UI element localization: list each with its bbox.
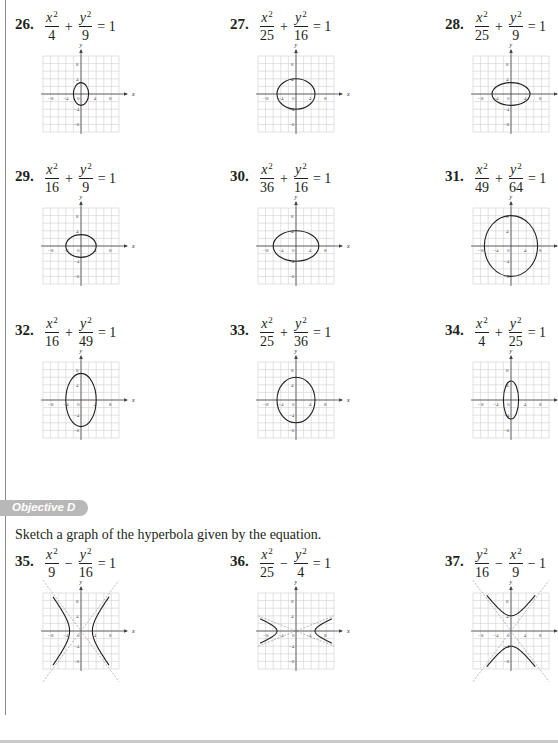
svg-text:y: y [294, 194, 298, 200]
numerator-variable: y [510, 162, 516, 177]
denominator: 25 [260, 564, 274, 580]
svg-text:8: 8 [76, 214, 79, 219]
coordinate-graph: xy−8−404884−4−8 [473, 593, 549, 669]
svg-text:0: 0 [77, 248, 80, 253]
denominator: 16 [294, 27, 308, 43]
svg-text:−8: −8 [263, 248, 269, 253]
numerator-variable: y [295, 162, 301, 177]
denominator: 9 [82, 179, 89, 195]
operator: − [280, 556, 288, 572]
denominator: 9 [48, 564, 55, 580]
svg-text:−8: −8 [289, 274, 295, 279]
fraction-term-2: y225 [509, 316, 523, 349]
svg-text:4: 4 [76, 614, 79, 619]
svg-text:0: 0 [507, 402, 510, 407]
svg-text:4: 4 [291, 383, 294, 388]
svg-text:−8: −8 [478, 402, 484, 407]
denominator: 16 [294, 179, 308, 195]
equation: x29−y216= 1 [43, 547, 116, 580]
svg-text:y: y [79, 348, 83, 354]
numerator-variable: y [295, 547, 301, 562]
numerator-variable: x [261, 316, 267, 331]
numerator-variable: y [295, 316, 301, 331]
denominator: 25 [260, 333, 274, 349]
svg-text:−4: −4 [74, 107, 80, 112]
equation: x225+y236= 1 [258, 316, 331, 349]
coordinate-graph: xy−8−404884−4−8 [258, 56, 334, 132]
svg-text:−8: −8 [48, 248, 54, 253]
objective-badge: Objective D [0, 500, 88, 516]
svg-text:−8: −8 [48, 633, 54, 638]
svg-text:−8: −8 [504, 122, 510, 127]
equation-rhs: = 1 [97, 19, 115, 35]
page-bottom-rule [0, 740, 558, 743]
denominator: 16 [45, 179, 59, 195]
svg-text:−4: −4 [504, 107, 510, 112]
operator: + [280, 171, 288, 187]
coordinate-graph: xy−8−404884−4−8 [43, 362, 119, 438]
numerator-variable: x [46, 316, 52, 331]
objective-badge-label: Objective D [12, 501, 75, 513]
svg-text:y: y [509, 579, 513, 585]
numerator-variable: x [261, 547, 267, 562]
coordinate-graph: xy−8−404884−4−8 [258, 593, 334, 669]
equation: x225+y29= 1 [473, 10, 546, 43]
equation-rhs: = 1 [313, 556, 331, 572]
fraction-term-1: x249 [475, 162, 489, 195]
coordinate-graph: xy−8−404884−4−8 [473, 362, 549, 438]
coordinate-graph: xy−8−404884−4−8 [43, 208, 119, 284]
problem-number: 33. [230, 322, 249, 339]
svg-text:4: 4 [76, 229, 79, 234]
denominator: 36 [294, 333, 308, 349]
svg-text:−4: −4 [493, 96, 499, 101]
fraction-term-2: y29 [509, 10, 523, 43]
numerator-variable: y [510, 10, 516, 25]
numerator-variable: x [46, 10, 52, 25]
svg-text:y: y [79, 42, 83, 48]
numerator-variable: y [295, 10, 301, 25]
fraction-term-2: y216 [294, 10, 308, 43]
svg-text:−8: −8 [289, 659, 295, 664]
equation: x24+y29= 1 [43, 10, 116, 43]
fraction-term-2: y216 [294, 162, 308, 195]
equation: x24+y225= 1 [473, 316, 546, 349]
coordinate-graph: xy−8−404884−4−8 [43, 56, 119, 132]
numerator-variable: y [80, 162, 86, 177]
numerator-variable: y [476, 547, 482, 562]
svg-text:−8: −8 [48, 402, 54, 407]
numerator-variable: x [261, 10, 267, 25]
equation: x216+y249= 1 [43, 316, 116, 349]
svg-text:y: y [79, 579, 83, 585]
section-instruction: Sketch a graph of the hyperbola given by… [15, 527, 321, 543]
svg-text:−4: −4 [74, 413, 80, 418]
svg-text:−4: −4 [63, 96, 69, 101]
svg-text:−8: −8 [74, 274, 80, 279]
operator: + [280, 325, 288, 341]
svg-text:−8: −8 [74, 428, 80, 433]
svg-text:y: y [509, 194, 513, 200]
equation-rhs: = 1 [98, 171, 116, 187]
svg-text:−8: −8 [74, 659, 80, 664]
coordinate-graph: xy−8−404884−4−8 [43, 593, 119, 669]
svg-text:−4: −4 [289, 259, 295, 264]
operator: + [65, 19, 73, 35]
fraction-term-2: y29 [79, 162, 93, 195]
svg-text:x: x [346, 91, 350, 97]
fraction-term-2: y29 [79, 10, 93, 43]
numerator-variable: y [510, 316, 516, 331]
svg-text:−4: −4 [74, 644, 80, 649]
svg-text:4: 4 [76, 77, 79, 82]
svg-text:4: 4 [506, 77, 509, 82]
problem-number: 28. [445, 16, 464, 33]
denominator: 25 [260, 27, 274, 43]
svg-text:y: y [294, 579, 298, 585]
equation-rhs: = 1 [313, 171, 331, 187]
equation-rhs: = 1 [528, 325, 546, 341]
svg-text:−8: −8 [74, 122, 80, 127]
svg-text:x: x [131, 243, 135, 249]
problem-number: 35. [15, 553, 34, 570]
svg-text:−4: −4 [278, 402, 284, 407]
coordinate-graph: xy−8−404884−4−8 [258, 208, 334, 284]
svg-text:−4: −4 [493, 402, 499, 407]
numerator-variable: x [476, 162, 482, 177]
